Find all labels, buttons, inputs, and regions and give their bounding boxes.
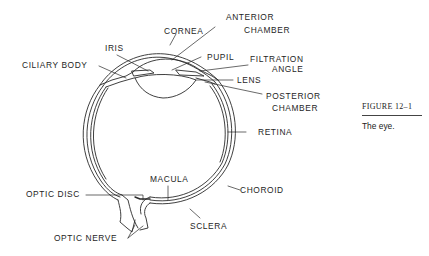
figure-caption: FIGURE 12–1 The eye.	[362, 102, 424, 131]
label-optic-nerve: OPTIC NERVE	[54, 234, 117, 243]
label-posterior-chamber-line1: POSTERIOR	[266, 92, 321, 101]
iris-shape	[132, 70, 204, 76]
label-pupil: PUPIL	[207, 53, 234, 62]
label-ciliary-body: CILIARY BODY	[22, 61, 88, 70]
label-choroid: CHOROID	[240, 186, 284, 195]
label-macula: MACULA	[150, 175, 189, 184]
label-optic-disc: OPTIC DISC	[26, 190, 80, 199]
label-posterior-chamber-line2: CHAMBER	[272, 104, 318, 113]
label-anterior-chamber-line1: ANTERIOR	[226, 13, 274, 22]
label-retina: RETINA	[258, 128, 292, 137]
label-filtration-angle-line1: FILTRATION	[250, 55, 304, 64]
lens-shape	[135, 74, 196, 98]
label-iris: IRIS	[105, 44, 124, 53]
figure-number: FIGURE 12–1	[362, 102, 422, 116]
figure-caption-text: The eye.	[362, 121, 424, 131]
sclera-outline	[83, 80, 235, 204]
label-anterior-chamber-line2: CHAMBER	[244, 26, 290, 35]
label-lens: LENS	[237, 76, 261, 85]
ciliary-body-shape	[100, 70, 218, 87]
label-sclera: SCLERA	[190, 222, 227, 231]
label-filtration-angle-line2: ANGLE	[272, 65, 303, 74]
label-cornea: CORNEA	[164, 27, 203, 36]
